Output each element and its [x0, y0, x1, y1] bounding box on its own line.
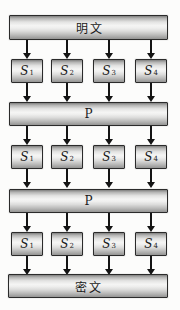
plaintext-label: 明文	[76, 19, 104, 36]
sbox-label: S	[20, 64, 28, 78]
sbox-r3-s1: S1	[11, 232, 43, 256]
sbox-r2-s2: S2	[51, 145, 83, 169]
sbox-r3-s3: S3	[93, 232, 125, 256]
sbox-r1-s3: S3	[93, 59, 125, 83]
sbox-subscript: 3	[111, 70, 115, 77]
sbox-label: S	[60, 150, 68, 164]
sbox-r1-s1: S1	[11, 59, 43, 83]
permutation-label: P	[84, 107, 92, 121]
permutation-box-1: P	[9, 102, 168, 126]
sbox-label: S	[144, 237, 152, 251]
sbox-label: S	[20, 237, 28, 251]
sbox-subscript: 2	[69, 243, 73, 250]
sbox-subscript: 3	[111, 156, 115, 163]
sbox-label: S	[102, 237, 110, 251]
sbox-subscript: 4	[153, 70, 157, 77]
sbox-r3-s4: S4	[135, 232, 167, 256]
permutation-label: P	[84, 194, 92, 208]
sbox-r2-s3: S3	[93, 145, 125, 169]
permutation-box-2: P	[9, 189, 168, 213]
sbox-r1-s4: S4	[135, 59, 167, 83]
sbox-subscript: 2	[69, 70, 73, 77]
plaintext-box: 明文	[9, 15, 168, 40]
sbox-subscript: 1	[29, 243, 33, 250]
sbox-subscript: 1	[29, 156, 33, 163]
ciphertext-box: 密文	[8, 274, 168, 298]
sbox-subscript: 1	[29, 70, 33, 77]
ciphertext-label: 密文	[75, 278, 103, 295]
sbox-subscript: 2	[69, 156, 73, 163]
sbox-label: S	[144, 64, 152, 78]
sbox-r2-s1: S1	[11, 145, 43, 169]
sbox-subscript: 4	[153, 243, 157, 250]
sbox-r1-s2: S2	[51, 59, 83, 83]
sbox-label: S	[20, 150, 28, 164]
sbox-label: S	[102, 64, 110, 78]
sbox-label: S	[102, 150, 110, 164]
sbox-label: S	[60, 64, 68, 78]
sbox-r3-s2: S2	[51, 232, 83, 256]
sp-network-diagram: 明文 S1 S2 S3 S4 P S1 S2 S3 S4	[0, 0, 180, 310]
sbox-label: S	[144, 150, 152, 164]
sbox-subscript: 3	[111, 243, 115, 250]
sbox-r2-s4: S4	[135, 145, 167, 169]
sbox-label: S	[60, 237, 68, 251]
sbox-subscript: 4	[153, 156, 157, 163]
